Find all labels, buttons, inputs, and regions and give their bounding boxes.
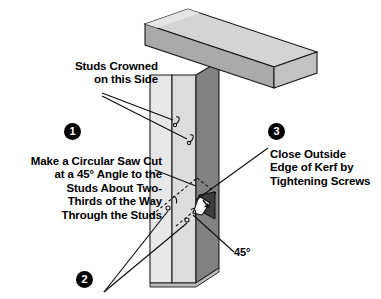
illustration-figure: Studs Crowned on this Side 1 Make a Circ…	[0, 0, 381, 299]
stud-face-right	[172, 75, 196, 283]
callout-marker-3: 3	[268, 123, 285, 140]
label-studs-crowned: Studs Crowned on this Side	[18, 60, 158, 87]
callout-marker-2: 2	[76, 271, 93, 288]
label-step-1: Make a Circular Saw Cut at a 45° Angle t…	[2, 155, 162, 222]
label-angle-45: 45°	[234, 246, 250, 259]
label-step-3: Close Outside Edge of Kerf by Tightening…	[270, 148, 380, 188]
callout-marker-1: 1	[64, 123, 81, 140]
stud-side-dark	[196, 61, 219, 283]
